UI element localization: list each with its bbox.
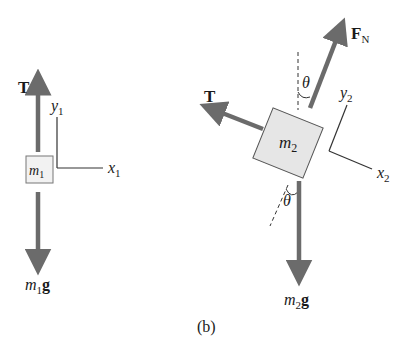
figure-caption: (b) [197,318,216,336]
x1-axis-label: x1 [107,159,121,179]
right-free-body: FN θ T m2 y2 x2 θ m2g [204,24,390,311]
angle-label-bottom: θ [283,192,291,209]
normal-force-label: FN [351,24,369,45]
angle-arc-top [298,92,310,98]
x2-axis [329,151,372,169]
weight-label-m2: m2g [284,291,309,311]
tension-label-m2: T [204,87,216,106]
angle-label-top: θ [302,74,310,91]
tension-label-m1: T [18,78,30,97]
normal-force-arrow [310,30,340,108]
y1-axis-label: y1 [49,97,64,117]
x2-axis-label: x2 [376,164,390,184]
weight-label-m1: m1g [25,276,50,296]
y2-axis-label: y2 [338,84,353,104]
y2-axis [329,105,347,151]
tension-arrow-m2 [212,109,263,129]
left-free-body: T y1 x1 m1 m1g [18,78,121,296]
free-body-diagram: T y1 x1 m1 m1g FN θ T m2 [0,0,416,355]
